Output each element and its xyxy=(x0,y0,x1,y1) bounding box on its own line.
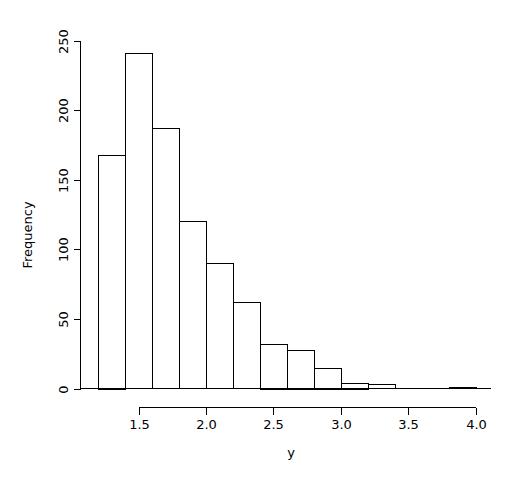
x-tick-label: 3.5 xyxy=(398,417,419,432)
histogram-bar xyxy=(261,345,288,390)
y-axis-title: Frequency xyxy=(20,201,35,268)
histogram-canvas: 050100150200250 1.52.02.53.03.54.0 y Fre… xyxy=(0,0,512,485)
histogram-bar xyxy=(315,369,342,390)
histogram-bar xyxy=(288,351,315,390)
y-tick-label: 50 xyxy=(56,311,71,328)
y-tick-label: 100 xyxy=(56,237,71,262)
x-tick-label: 4.0 xyxy=(466,417,487,432)
x-tick-label: 2.0 xyxy=(196,417,217,432)
x-tick-label: 3.0 xyxy=(331,417,352,432)
histogram-bar xyxy=(126,54,153,389)
y-tick-label: 250 xyxy=(56,29,71,54)
histogram-plot: 050100150200250 1.52.02.53.03.54.0 y Fre… xyxy=(0,0,512,485)
y-tick-label: 150 xyxy=(56,168,71,193)
histogram-bar xyxy=(369,385,396,389)
y-tick-label: 200 xyxy=(56,98,71,123)
histogram-bar xyxy=(234,303,261,389)
y-tick-label: 0 xyxy=(56,385,71,393)
plot-background xyxy=(0,0,512,485)
x-axis-title: y xyxy=(287,445,295,460)
x-tick-label: 2.5 xyxy=(263,417,284,432)
histogram-bar xyxy=(99,156,126,390)
histogram-bar xyxy=(207,264,234,389)
histogram-bar xyxy=(180,222,207,389)
x-tick-label: 1.5 xyxy=(129,417,150,432)
histogram-bar xyxy=(153,129,180,389)
